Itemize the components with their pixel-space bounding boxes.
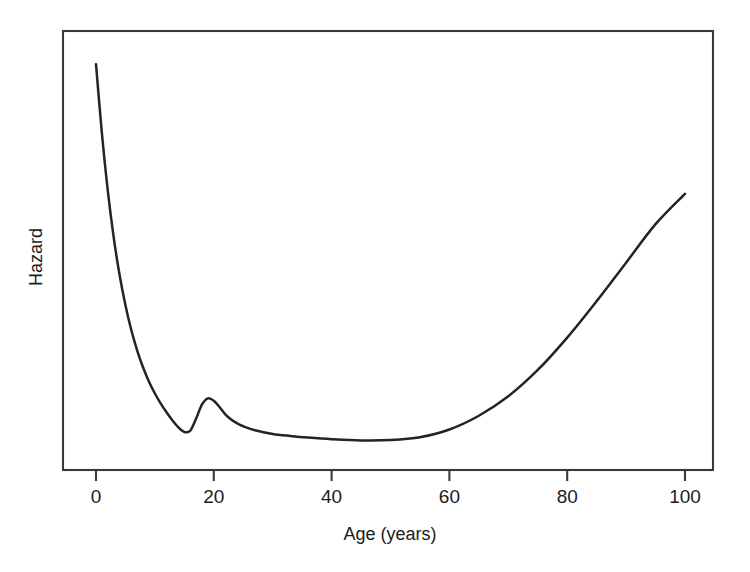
x-tick-label: 80 <box>557 486 578 507</box>
x-tick-label: 0 <box>91 486 102 507</box>
y-axis-title: Hazard <box>26 228 46 286</box>
x-tick-label: 60 <box>439 486 460 507</box>
x-tick-label: 100 <box>669 486 701 507</box>
chart-figure: 020406080100 Age (years) Hazard <box>0 0 750 572</box>
hazard-line-chart: 020406080100 Age (years) Hazard <box>0 0 750 572</box>
hazard-curve-line <box>96 64 685 440</box>
x-axis-tick-labels: 020406080100 <box>91 486 701 507</box>
x-tick-label: 20 <box>203 486 224 507</box>
x-axis-tick-marks <box>96 470 685 481</box>
x-axis-title: Age (years) <box>343 524 436 544</box>
x-tick-label: 40 <box>321 486 342 507</box>
